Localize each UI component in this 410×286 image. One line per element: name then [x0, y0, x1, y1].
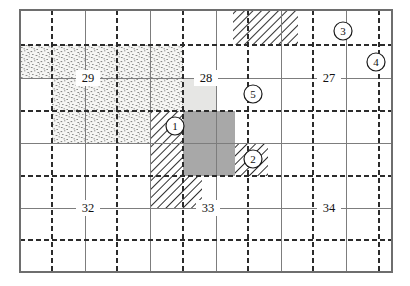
- map-canvas: 29 28 27 32 33 34: [0, 0, 410, 286]
- callout-5-group[interactable]: 5: [244, 85, 262, 103]
- parcel-stipple-north: [20, 45, 183, 78]
- callout-1-label: 1: [172, 120, 178, 132]
- section-label-27-group: 27: [317, 70, 341, 86]
- section-label-33-group: 33: [196, 200, 220, 216]
- section-label-28-group: 28: [194, 70, 218, 86]
- parcel-stipple-lower-mid: [117, 111, 150, 143]
- parcel-hatch-below: [150, 176, 202, 208]
- section-label-32-group: 32: [76, 200, 100, 216]
- section-label-34-group: 34: [317, 200, 341, 216]
- section-label-28: 28: [200, 71, 213, 85]
- callout-2-group[interactable]: 2: [244, 150, 262, 168]
- parcel-hatch-top: [233, 10, 298, 45]
- callout-4-label: 4: [373, 56, 379, 68]
- section-label-29-group: 29: [76, 70, 100, 86]
- callout-3-group[interactable]: 3: [334, 22, 352, 40]
- section-label-27: 27: [323, 71, 336, 85]
- callout-5-label: 5: [250, 88, 256, 100]
- callout-4-group[interactable]: 4: [367, 53, 385, 71]
- section-label-34: 34: [323, 201, 336, 215]
- survey-grid-map: 29 28 27 32 33 34: [0, 0, 410, 286]
- section-label-29: 29: [82, 71, 95, 85]
- callout-2-label: 2: [250, 153, 256, 165]
- section-label-33: 33: [202, 201, 215, 215]
- parcel-layer: [20, 10, 298, 208]
- section-label-32: 32: [82, 201, 95, 215]
- callout-3-label: 3: [340, 25, 346, 37]
- callout-1-group[interactable]: 1: [166, 117, 184, 135]
